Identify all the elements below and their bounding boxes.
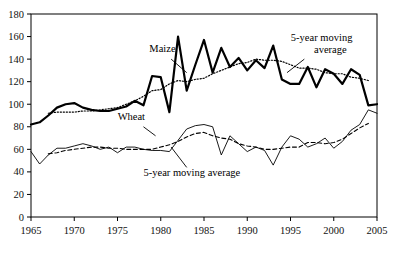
- y-tick-label: 40: [14, 166, 25, 177]
- annotation-wheat-ma-label: 5-year moving average: [143, 167, 240, 178]
- y-tick-label: 160: [8, 31, 24, 42]
- x-tick-label: 1990: [237, 225, 258, 236]
- x-axis-tick-labels: 196519701975198019851990199520002005: [21, 225, 388, 236]
- x-tick-label: 1995: [280, 225, 301, 236]
- y-tick-label: 20: [14, 189, 25, 200]
- y-tick-label: 140: [8, 54, 24, 65]
- x-tick-label: 1965: [21, 225, 42, 236]
- annotation-maize-ma-line2: average: [314, 44, 347, 55]
- annotation-maize-ma-line1: 5-year moving: [291, 32, 353, 43]
- chart-container: 020406080100120140160180 196519701975198…: [0, 0, 396, 262]
- y-tick-label: 80: [14, 121, 25, 132]
- annotation-wheat-label: Wheat: [118, 111, 145, 122]
- x-tick-label: 2000: [323, 225, 344, 236]
- x-tick-label: 1970: [64, 225, 85, 236]
- line-chart: 020406080100120140160180 196519701975198…: [0, 0, 396, 262]
- y-tick-label: 180: [8, 9, 24, 20]
- y-tick-label: 100: [8, 99, 24, 110]
- y-tick-label: 60: [14, 144, 25, 155]
- y-tick-label: 0: [19, 212, 24, 223]
- x-tick-label: 1980: [150, 225, 171, 236]
- x-tick-label: 1985: [194, 225, 215, 236]
- annotation-maize-label: Maize: [149, 43, 176, 54]
- x-tick-label: 2005: [367, 225, 388, 236]
- x-tick-label: 1975: [107, 225, 128, 236]
- y-tick-label: 120: [8, 76, 24, 87]
